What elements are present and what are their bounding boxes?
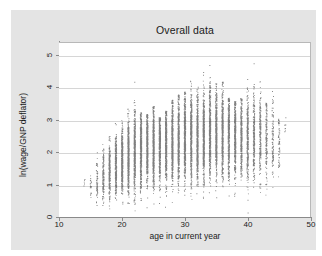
y-tick-label-1: 1 xyxy=(45,183,54,187)
y-tick-mark-5 xyxy=(56,55,59,56)
y-tick-label-5: 5 xyxy=(45,53,54,57)
scatter-marker-layer xyxy=(84,63,287,213)
plot-area xyxy=(59,42,311,217)
y-tick-label-3: 3 xyxy=(45,118,54,122)
x-axis-title: age in current year xyxy=(59,231,311,241)
x-tick-label-20: 20 xyxy=(118,220,127,229)
chart-title: Overall data xyxy=(59,24,311,36)
y-tick-mark-0 xyxy=(56,217,59,218)
y-tick-mark-2 xyxy=(56,152,59,153)
x-tick-label-30: 30 xyxy=(181,220,190,229)
x-tick-label-40: 40 xyxy=(244,220,253,229)
x-tick-label-50: 50 xyxy=(307,220,316,229)
y-tick-label-4: 4 xyxy=(45,85,54,89)
y-tick-mark-1 xyxy=(56,185,59,186)
y-tick-label-2: 2 xyxy=(45,150,54,154)
scatter-points xyxy=(59,43,310,217)
x-tick-label-10: 10 xyxy=(55,220,64,229)
y-axis-title: ln(wage/GNP deflator) xyxy=(18,93,28,177)
graph-region: Overall data 1020304050 012345 age in cu… xyxy=(11,10,316,250)
y-tick-mark-3 xyxy=(56,120,59,121)
stata-scatter-figure: Overall data 1020304050 012345 age in cu… xyxy=(0,0,322,256)
y-tick-mark-4 xyxy=(56,87,59,88)
y-tick-label-0: 0 xyxy=(45,215,54,219)
